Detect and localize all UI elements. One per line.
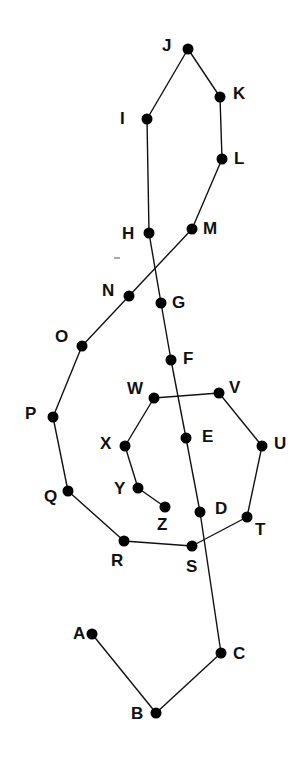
label-i: I <box>120 109 125 128</box>
segment-b-c <box>156 653 221 713</box>
label-k: K <box>233 84 246 103</box>
label-p: P <box>25 404 36 423</box>
dot-y <box>133 483 144 494</box>
segment-u-v <box>219 393 262 446</box>
segment-q-r <box>68 491 124 541</box>
label-z: Z <box>157 515 167 534</box>
dot-v <box>214 388 225 399</box>
dot-r <box>119 536 130 547</box>
label-x: X <box>100 434 112 453</box>
labels: ABCDEFGHIJKLMNOPQRSTUVWXYZ <box>25 36 286 723</box>
label-j: J <box>162 36 171 55</box>
dot-g <box>156 298 167 309</box>
label-q: Q <box>44 487 57 506</box>
segment-v-w <box>154 393 219 398</box>
segment-t-u <box>247 446 262 517</box>
dot-q <box>63 486 74 497</box>
segment-x-y <box>125 446 138 488</box>
label-d: D <box>215 499 227 518</box>
label-t: T <box>255 520 266 539</box>
label-l: L <box>234 149 244 168</box>
dot-n <box>124 291 135 302</box>
dot-c <box>216 648 227 659</box>
segment-f-g <box>161 303 171 360</box>
dot-a <box>87 629 98 640</box>
segment-s-t <box>192 517 247 546</box>
dot-x <box>120 441 131 452</box>
label-c: C <box>233 644 245 663</box>
segment-d-e <box>186 438 200 512</box>
label-b: B <box>131 704 143 723</box>
dot-d <box>195 507 206 518</box>
segment-n-o <box>82 296 129 346</box>
label-v: V <box>229 378 241 397</box>
segment-a-b <box>92 634 156 713</box>
segment-h-i <box>147 119 149 233</box>
dot-u <box>257 441 268 452</box>
segment-o-p <box>53 346 82 417</box>
dot-e <box>181 433 192 444</box>
dot-w <box>149 393 160 404</box>
dot-s <box>187 541 198 552</box>
dot-j <box>183 44 194 55</box>
label-u: U <box>274 434 286 453</box>
label-f: F <box>183 349 193 368</box>
segment-e-f <box>171 360 186 438</box>
label-r: R <box>111 551 123 570</box>
segment-m-n <box>129 229 192 296</box>
label-y: Y <box>114 479 126 498</box>
segment-k-l <box>220 97 222 159</box>
dot-z <box>160 502 171 513</box>
segment-r-s <box>124 541 192 546</box>
dot-h <box>144 228 155 239</box>
dot-i <box>142 114 153 125</box>
label-m: M <box>203 219 217 238</box>
dot-f <box>166 355 177 366</box>
dot-o <box>77 341 88 352</box>
dot-l <box>217 154 228 165</box>
segment-p-q <box>53 417 68 491</box>
label-g: G <box>172 293 185 312</box>
label-w: W <box>127 379 144 398</box>
label-e: E <box>202 427 213 446</box>
dot-to-dot-diagram: ABCDEFGHIJKLMNOPQRSTUVWXYZ <box>0 0 307 763</box>
dot-b <box>151 708 162 719</box>
dot-m <box>187 224 198 235</box>
segment-w-x <box>125 398 154 446</box>
label-h: H <box>122 224 134 243</box>
segment-j-k <box>188 49 220 97</box>
label-a: A <box>73 624 85 643</box>
dot-t <box>242 512 253 523</box>
label-n: N <box>102 281 114 300</box>
dot-k <box>215 92 226 103</box>
segment-i-j <box>147 49 188 119</box>
dot-p <box>48 412 59 423</box>
label-o: O <box>55 327 68 346</box>
label-s: S <box>186 557 197 576</box>
